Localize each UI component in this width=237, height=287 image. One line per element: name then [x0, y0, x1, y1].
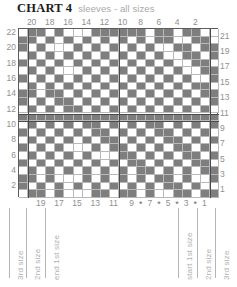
chart-cell [46, 60, 55, 68]
chart-cell [92, 67, 101, 75]
chart-cell [19, 175, 28, 183]
chart-cell [83, 152, 92, 160]
chart-cell [101, 44, 110, 52]
chart-cell [164, 90, 173, 98]
chart-cell [110, 60, 119, 68]
chart-cell [201, 60, 210, 68]
chart-cell [64, 160, 73, 168]
chart-cell [201, 129, 210, 137]
row-number: 8 [11, 134, 16, 144]
chart-cell [155, 160, 164, 168]
chart-cell [101, 190, 110, 198]
chart-cell [137, 44, 146, 52]
chart-cell [164, 175, 173, 183]
chart-cell [46, 98, 55, 106]
chart-cell [19, 98, 28, 106]
chart-cell [64, 144, 73, 152]
chart-cell [46, 75, 55, 83]
chart-cell [37, 129, 46, 137]
chart-cell [101, 98, 110, 106]
chart-cell [46, 90, 55, 98]
chart-cell [192, 29, 201, 37]
chart-cell [192, 37, 201, 45]
chart-cell [146, 137, 155, 145]
chart-cell [74, 37, 83, 45]
chart-cell [155, 121, 164, 129]
chart-cell [74, 44, 83, 52]
chart-cell [92, 167, 101, 175]
chart-cell [119, 144, 128, 152]
chart-cell [83, 52, 92, 60]
row-number: 6 [11, 150, 16, 160]
chart-cell [55, 67, 64, 75]
chart-cell [74, 137, 83, 145]
chart-cell [110, 167, 119, 175]
chart-cell [55, 175, 64, 183]
chart-cell [74, 167, 83, 175]
chart-cell [155, 44, 164, 52]
chart-cell [128, 144, 137, 152]
chart-cell [28, 183, 37, 191]
chart-cell [101, 152, 110, 160]
chart-cell [83, 121, 92, 129]
chart-cell [101, 144, 110, 152]
chart-cell [64, 175, 73, 183]
chart-cell [64, 90, 73, 98]
column-number: 20 [24, 17, 40, 28]
chart-cell [183, 114, 192, 122]
chart-cell [74, 190, 83, 198]
chart-cell [19, 152, 28, 160]
chart-cell [174, 37, 183, 45]
chart-cell [19, 37, 28, 45]
chart-cell [174, 44, 183, 52]
chart-cell [28, 129, 37, 137]
chart-cell [164, 67, 173, 75]
chart-cell [119, 175, 128, 183]
chart-cell [19, 90, 28, 98]
chart-cell [183, 121, 192, 129]
row-numbers-left: 222018161412108642 [0, 28, 18, 197]
chart-cell [110, 98, 119, 106]
chart-cell [37, 190, 46, 198]
row-number: 7 [220, 138, 225, 148]
chart-cell [83, 98, 92, 106]
right-size-3-label: 3rd size [222, 250, 231, 280]
chart-cell [46, 183, 55, 191]
chart-cell [183, 144, 192, 152]
chart-cell [64, 152, 73, 160]
chart-cell [183, 183, 192, 191]
chart-cell [28, 60, 37, 68]
chart-cell [74, 106, 83, 114]
chart-cell [46, 52, 55, 60]
chart-cell [146, 83, 155, 91]
chart-cell [64, 183, 73, 191]
chart-cell [119, 152, 128, 160]
chart-cell [74, 114, 83, 122]
chart-cell [92, 160, 101, 168]
column-number: 8 [133, 17, 149, 28]
chart-cell [174, 75, 183, 83]
chart-cell [28, 167, 37, 175]
chart-cell [192, 167, 201, 175]
chart-cell [137, 75, 146, 83]
chart-cell [183, 167, 192, 175]
chart-cell [92, 121, 101, 129]
row-number: 18 [7, 58, 16, 68]
chart-cell [37, 137, 46, 145]
chart-cell [146, 144, 155, 152]
chart-cell [183, 98, 192, 106]
chart-cell [183, 160, 192, 168]
chart-cell [192, 44, 201, 52]
chart-cell [92, 44, 101, 52]
chart-cell [155, 83, 164, 91]
chart-cell [83, 190, 92, 198]
chart-cell [64, 98, 73, 106]
chart-cell [174, 175, 183, 183]
left-size-3-label: end 1st size [52, 235, 61, 280]
chart-cell [83, 137, 92, 145]
chart-cell [55, 83, 64, 91]
chart-cell [64, 106, 73, 114]
chart-cell [83, 29, 92, 37]
row-number: 1 [220, 184, 225, 194]
chart-cell [37, 52, 46, 60]
